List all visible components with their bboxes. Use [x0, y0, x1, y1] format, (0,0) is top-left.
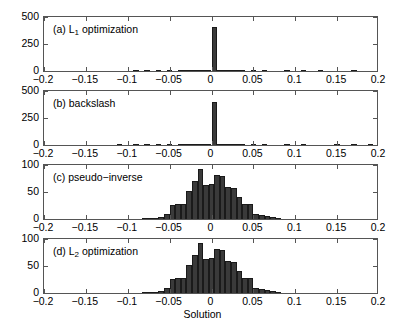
x-tick-mark	[377, 239, 378, 243]
x-tick-mark	[377, 289, 378, 293]
x-tick-mark	[86, 289, 87, 293]
x-tick-mark	[212, 289, 213, 293]
x-tick-label: −0.1	[116, 295, 137, 307]
y-tick-mark	[373, 293, 377, 294]
x-tick-mark	[253, 289, 254, 293]
y-tick-mark	[44, 293, 48, 294]
panel-title-rest: optimization	[79, 245, 138, 257]
x-tick-label: 0	[208, 295, 214, 307]
panel-d: (d) L2 optimization050100−0.2−0.15−0.1−0…	[0, 0, 405, 328]
x-tick-label: 0.1	[287, 295, 302, 307]
x-tick-mark	[170, 239, 171, 243]
y-tick-label: 100	[21, 233, 39, 243]
x-tick-mark	[170, 289, 171, 293]
x-axis-d: −0.2−0.15−0.1−0.0500.050.10.150.2	[0, 295, 405, 309]
x-tick-label: −0.05	[155, 295, 182, 307]
y-tick-mark	[373, 266, 377, 267]
panel-title-main: (d) L	[53, 245, 75, 257]
panel-title-d: (d) L2 optimization	[53, 246, 138, 260]
x-tick-label: 0.15	[326, 295, 346, 307]
x-tick-mark	[128, 239, 129, 243]
x-tick-mark	[128, 289, 129, 293]
histogram-bar	[276, 292, 282, 293]
x-tick-mark	[44, 239, 45, 243]
x-tick-mark	[295, 239, 296, 243]
x-tick-label: −0.2	[33, 295, 54, 307]
x-tick-mark	[44, 289, 45, 293]
x-tick-mark	[212, 239, 213, 243]
y-tick-mark	[44, 266, 48, 267]
x-axis-label: Solution	[0, 308, 405, 320]
x-tick-mark	[86, 239, 87, 243]
x-tick-mark	[253, 239, 254, 243]
x-tick-mark	[295, 289, 296, 293]
x-tick-mark	[337, 289, 338, 293]
x-tick-label: 0.2	[371, 295, 386, 307]
y-tick-label: 50	[27, 260, 39, 270]
x-tick-label: 0.05	[242, 295, 262, 307]
x-tick-label: −0.15	[72, 295, 99, 307]
x-tick-mark	[337, 239, 338, 243]
histogram-figure: (a) L1 optimization0250500−0.2−0.15−0.1−…	[0, 0, 405, 328]
